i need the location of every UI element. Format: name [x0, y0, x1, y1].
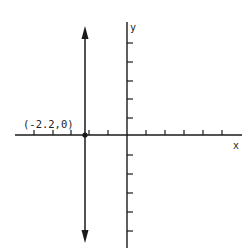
point-label: (-2.2,0) — [23, 118, 74, 130]
y-axis-label: y — [130, 22, 136, 33]
x-axis-label: x — [233, 140, 239, 151]
x-axis-ticks — [34, 130, 222, 135]
coordinate-plane: (-2.2,0) y x — [0, 0, 251, 249]
arrow-down-icon — [82, 230, 89, 243]
arrow-up-icon — [82, 26, 89, 39]
point-marker — [82, 132, 87, 137]
y-axis-ticks — [127, 43, 133, 231]
